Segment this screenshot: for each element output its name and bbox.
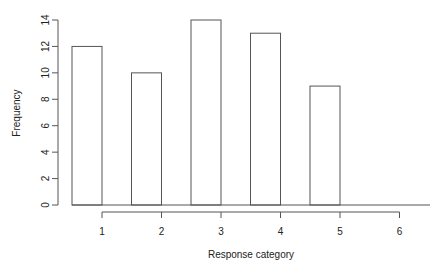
x-axis-label: Response category — [208, 249, 294, 260]
bar-3 — [191, 20, 221, 205]
x-tick-label: 5 — [337, 226, 343, 237]
y-tick-label: 4 — [40, 149, 51, 155]
bar-1 — [72, 46, 102, 205]
y-tick-label: 8 — [40, 96, 51, 102]
histogram-chart: 02468101214 123456 Frequency Response ca… — [0, 0, 442, 268]
y-tick-label: 6 — [40, 122, 51, 128]
y-axis: 02468101214 — [40, 14, 58, 208]
x-tick-label: 1 — [99, 226, 105, 237]
x-tick-label: 6 — [397, 226, 403, 237]
y-tick-label: 2 — [40, 175, 51, 181]
bar-2 — [132, 73, 162, 205]
y-tick-label: 10 — [40, 67, 51, 79]
bar-4 — [251, 33, 281, 205]
bars — [72, 20, 430, 205]
y-tick-label: 14 — [40, 14, 51, 26]
x-tick-label: 4 — [278, 226, 284, 237]
x-tick-label: 2 — [159, 226, 165, 237]
bar-5 — [310, 86, 340, 205]
y-tick-label: 0 — [40, 202, 51, 208]
x-tick-label: 3 — [218, 226, 224, 237]
y-tick-label: 12 — [40, 40, 51, 52]
chart-canvas: 02468101214 123456 Frequency Response ca… — [0, 0, 442, 268]
y-axis-label: Frequency — [11, 89, 22, 136]
x-axis: 123456 — [99, 212, 403, 237]
